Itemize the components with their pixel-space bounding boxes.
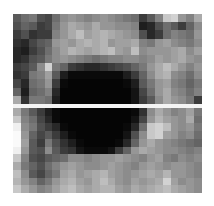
pixel-cell [45,162,53,170]
pixel-cell [163,108,171,116]
pixel-cell [60,55,68,63]
pixel-cell [68,162,76,170]
pixel-cell [13,162,21,170]
pixel-cell [29,47,37,55]
pixel-cell [155,185,163,193]
pixel-cell [171,88,179,96]
pixel-cell [186,154,194,162]
pixel-cell [115,131,123,139]
pixel-cell [139,170,147,178]
pixel-cell [92,162,100,170]
pixel-cell [186,131,194,139]
pixel-cell [163,154,171,162]
pixel-cell [60,108,68,116]
pixel-cell [29,139,37,147]
pixel-cell [194,71,202,79]
pixel-cell [52,139,60,147]
pixel-cell [108,131,116,139]
pixel-cell [186,22,194,30]
pixel-cell [76,47,84,55]
pixel-cell [171,71,179,79]
pixel-cell [139,88,147,96]
pixel-cell [100,116,108,124]
pixel-cell [163,55,171,63]
pixel-cell [178,55,186,63]
pixel-cell [163,147,171,155]
pixel-cell [37,154,45,162]
pixel-cell [84,22,92,30]
pixel-cell [13,147,21,155]
pixel-cell [92,30,100,38]
pixel-cell [52,170,60,178]
pixel-cell [171,39,179,47]
pixel-cell [147,123,155,131]
pixel-cell [13,88,21,96]
pixel-cell [194,123,202,131]
pixel-cell [84,96,92,104]
pixel-cell [45,147,53,155]
pixel-cell [92,71,100,79]
pixel-cell [108,178,116,186]
pixel-cell [76,39,84,47]
pixel-cell [21,30,29,38]
pixel-cell [68,139,76,147]
pixel-cell [163,116,171,124]
pixel-cell [52,178,60,186]
pixel-cell [100,185,108,193]
pixel-cell [115,185,123,193]
pixel-cell [171,123,179,131]
pixel-cell [171,55,179,63]
pixel-cell [84,71,92,79]
pixel-cell [45,96,53,104]
pixel-cell [108,63,116,71]
pixel-cell [84,14,92,22]
pixel-cell [92,108,100,116]
pixel-cell [171,47,179,55]
pixel-cell [45,30,53,38]
pixel-cell [13,131,21,139]
pixel-cell [147,55,155,63]
pixel-cell [186,88,194,96]
pixel-cell [21,39,29,47]
pixel-cell [115,22,123,30]
pixel-cell [131,108,139,116]
pixel-cell [131,14,139,22]
pixel-cell [100,22,108,30]
pixel-cell [155,108,163,116]
pixel-cell [68,147,76,155]
pixel-cell [37,170,45,178]
pixel-cell [178,96,186,104]
pixel-cell [76,154,84,162]
pixel-cell [163,47,171,55]
pixel-cell [108,170,116,178]
pixel-cell [29,170,37,178]
pixel-cell [37,71,45,79]
pixel-cell [92,170,100,178]
pixel-cell [13,14,21,22]
pixel-cell [52,79,60,87]
pixel-cell [100,162,108,170]
pixel-cell [60,39,68,47]
pixel-cell [123,88,131,96]
pixel-cell [29,55,37,63]
pixel-cell [108,14,116,22]
pixel-cell [52,162,60,170]
pixel-cell [147,131,155,139]
pixel-cell [178,63,186,71]
pixel-cell [139,14,147,22]
pixel-cell [171,63,179,71]
pixel-cell [76,185,84,193]
pixel-cell [178,154,186,162]
pixel-cell [186,71,194,79]
pixel-cell [76,116,84,124]
pixel-cell [76,108,84,116]
pixel-cell [171,170,179,178]
pixel-cell [171,154,179,162]
pixel-cell [100,108,108,116]
pixel-cell [194,108,202,116]
pixel-cell [155,79,163,87]
pixel-cell [21,96,29,104]
pixel-cell [155,71,163,79]
pixel-cell [29,96,37,104]
pixel-cell [115,55,123,63]
